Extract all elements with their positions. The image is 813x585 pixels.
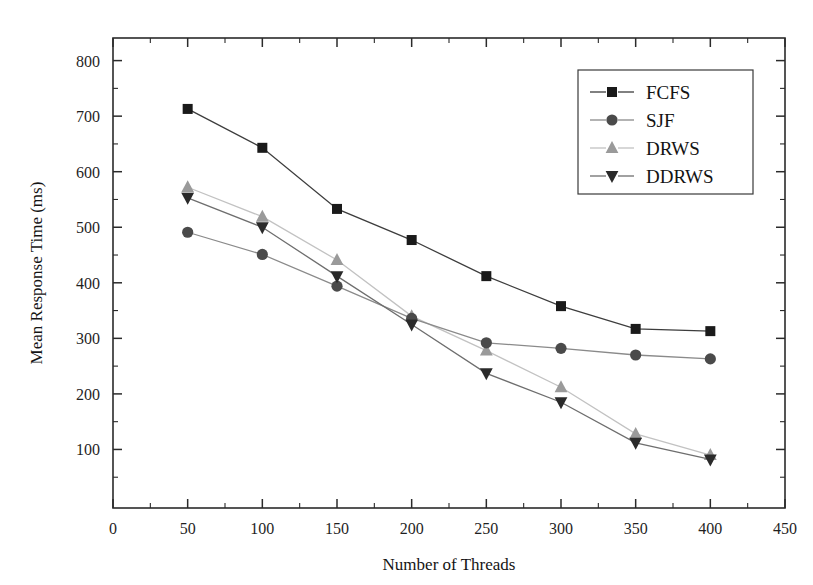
marker-circle	[182, 227, 193, 238]
x-tick-label: 0	[109, 520, 117, 537]
x-axis-title: Number of Threads	[383, 555, 516, 574]
marker-triangle-up	[555, 380, 568, 392]
series-drws	[181, 180, 716, 460]
marker-circle	[481, 337, 492, 348]
marker-triangle-down	[331, 271, 344, 283]
x-tick-label: 100	[250, 520, 274, 537]
x-tick-label: 450	[773, 520, 797, 537]
y-tick-label: 400	[76, 275, 100, 292]
line-chart-canvas: 0501001502002503003504004501002003004005…	[0, 0, 813, 585]
legend-label: DRWS	[646, 138, 700, 159]
marker-square	[481, 271, 491, 281]
x-tick-label: 50	[180, 520, 196, 537]
marker-circle	[630, 349, 641, 360]
x-tick-label: 250	[474, 520, 498, 537]
marker-square	[332, 204, 342, 214]
marker-square	[631, 324, 641, 334]
marker-triangle-up	[629, 427, 642, 439]
marker-triangle-up	[331, 253, 344, 265]
x-tick-label: 400	[698, 520, 722, 537]
marker-square	[607, 87, 617, 97]
x-tick-label: 300	[549, 520, 573, 537]
marker-triangle-down	[256, 222, 269, 234]
chart-figure: 0501001502002503003504004501002003004005…	[0, 0, 813, 585]
y-axis-title: Mean Response Time (ms)	[27, 182, 46, 365]
y-tick-label: 500	[76, 219, 100, 236]
x-tick-label: 150	[325, 520, 349, 537]
marker-triangle-up	[181, 180, 194, 192]
legend-label: FCFS	[646, 82, 690, 103]
marker-square	[257, 143, 267, 153]
marker-triangle-down	[405, 319, 418, 331]
series-sjf	[182, 227, 716, 365]
marker-circle	[606, 114, 617, 125]
y-tick-label: 100	[76, 441, 100, 458]
marker-triangle-up	[256, 210, 269, 222]
y-tick-label: 300	[76, 330, 100, 347]
marker-circle	[257, 249, 268, 260]
legend-label: SJF	[646, 110, 675, 131]
y-tick-label: 700	[76, 108, 100, 125]
marker-triangle-down	[480, 368, 493, 380]
marker-triangle-down	[704, 454, 717, 466]
marker-square	[556, 301, 566, 311]
marker-triangle-down	[181, 193, 194, 205]
y-tick-label: 200	[76, 386, 100, 403]
y-tick-label: 600	[76, 164, 100, 181]
y-tick-label: 800	[76, 53, 100, 70]
x-tick-label: 200	[400, 520, 424, 537]
marker-square	[183, 104, 193, 114]
marker-circle	[705, 353, 716, 364]
legend-label: DDRWS	[646, 166, 714, 187]
marker-triangle-down	[555, 397, 568, 409]
marker-square	[407, 235, 417, 245]
marker-circle	[555, 343, 566, 354]
series-line-drws	[188, 187, 711, 455]
x-tick-label: 350	[624, 520, 648, 537]
marker-square	[705, 326, 715, 336]
